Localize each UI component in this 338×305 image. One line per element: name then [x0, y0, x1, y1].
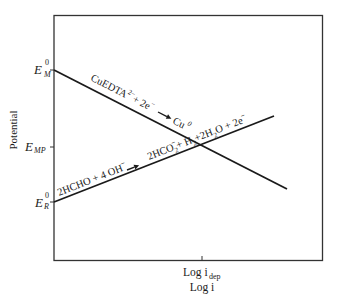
svg-text:MP: MP: [33, 146, 46, 155]
cathodic-arrow-icon: [157, 110, 173, 121]
svg-text:2HCO2−+ H2+2H2O + 2e−: 2HCO2−+ H2+2H2O + 2e−: [145, 111, 249, 164]
svg-text:M: M: [43, 70, 52, 79]
y-tick-label-er0: E 0 R: [34, 191, 49, 211]
y-axis-title: Potential: [7, 110, 19, 149]
svg-text:2HCHO + 4 OH−: 2HCHO + 4 OH−: [55, 159, 128, 198]
svg-text:E: E: [33, 62, 42, 77]
cathodic-reaction-label: CuEDTA2−+ 2e−: [89, 70, 157, 113]
svg-text:Log i: Log i: [183, 266, 208, 279]
x-axis-title: Log i: [190, 281, 215, 294]
y-tick-label-emp: E MP: [24, 139, 46, 155]
svg-text:CuEDTA2−+ 2e−: CuEDTA2−+ 2e−: [89, 70, 157, 113]
svg-text:E: E: [34, 195, 43, 210]
y-tick-label-em0: E 0 M: [33, 58, 52, 79]
svg-text:E: E: [24, 139, 33, 154]
svg-text:0: 0: [45, 58, 49, 67]
mixed-potential-diagram: E 0 M E MP E 0 R Potential Log i dep Log…: [0, 0, 338, 305]
cathodic-reduction-line: [54, 70, 287, 189]
svg-text:Cu0: Cu0: [171, 113, 193, 133]
svg-text:0: 0: [45, 191, 49, 200]
x-tick-label-idep: Log i dep: [183, 266, 221, 281]
cathodic-product-label: Cu0: [171, 113, 193, 133]
anodic-reactant-label: 2HCHO + 4 OH−: [55, 159, 128, 198]
svg-text:R: R: [43, 202, 49, 211]
mixed-potential-point: [200, 144, 202, 146]
anodic-oxidation-line: [54, 116, 274, 202]
svg-text:dep: dep: [209, 272, 221, 281]
anodic-product-label: 2HCO2−+ H2+2H2O + 2e−: [145, 111, 249, 164]
